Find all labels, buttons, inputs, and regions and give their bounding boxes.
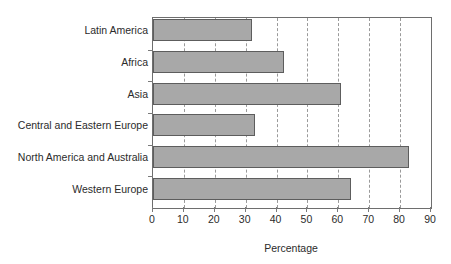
x-axis-tick-label: 50: [301, 214, 313, 225]
bar-row: Asia: [153, 83, 341, 105]
category-label: North America and Australia: [18, 152, 148, 163]
x-axis-tick-label: 40: [270, 214, 282, 225]
category-label: Asia: [128, 88, 148, 99]
bar[interactable]: [153, 19, 252, 41]
bar[interactable]: [153, 51, 284, 73]
x-axis-tick-10: [183, 207, 184, 212]
bar-row: Latin America: [153, 19, 252, 41]
bar-chart-figure: Latin AmericaAfricaAsiaCentral and Easte…: [0, 0, 451, 264]
bars-layer: Latin AmericaAfricaAsiaCentral and Easte…: [153, 18, 431, 208]
bar[interactable]: [153, 114, 255, 136]
x-axis-tick-50: [306, 207, 307, 212]
x-axis: 0102030405060708090: [152, 207, 430, 247]
x-axis-tick-label: 80: [393, 214, 405, 225]
plot-area: Latin AmericaAfricaAsiaCentral and Easte…: [152, 17, 432, 209]
x-axis-tick-40: [276, 207, 277, 212]
x-axis-tick-80: [399, 207, 400, 212]
x-axis-tick-90: [430, 207, 431, 212]
category-label: Western Europe: [72, 183, 148, 194]
x-axis-tick-70: [368, 207, 369, 212]
bar[interactable]: [153, 178, 351, 200]
x-axis-tick-30: [245, 207, 246, 212]
x-axis-tick-label: 30: [239, 214, 251, 225]
bar-row: Africa: [153, 51, 284, 73]
bar-row: North America and Australia: [153, 146, 409, 168]
x-axis-tick-label: 90: [424, 214, 436, 225]
bar-row: Western Europe: [153, 178, 351, 200]
x-axis-title: Percentage: [152, 243, 430, 254]
bar[interactable]: [153, 146, 409, 168]
category-label: Africa: [121, 57, 148, 68]
x-axis-tick-label: 70: [362, 214, 374, 225]
x-axis-tick-label: 10: [177, 214, 189, 225]
category-label: Latin America: [84, 25, 148, 36]
x-axis-tick-60: [337, 207, 338, 212]
bar-row: Central and Eastern Europe: [153, 114, 255, 136]
x-axis-tick-label: 20: [208, 214, 220, 225]
x-axis-tick-label: 60: [331, 214, 343, 225]
bar[interactable]: [153, 83, 341, 105]
x-axis-tick-0: [152, 207, 153, 212]
x-axis-tick-20: [214, 207, 215, 212]
x-axis-tick-label: 0: [149, 214, 155, 225]
category-label: Central and Eastern Europe: [18, 120, 148, 131]
